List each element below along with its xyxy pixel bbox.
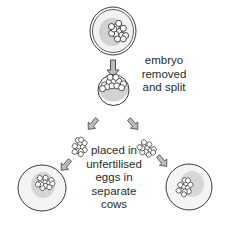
label-line: embryo [140, 54, 188, 68]
arrow-down-left-icon [85, 116, 101, 133]
fertilised-egg [90, 7, 136, 55]
label-line: removed [140, 68, 188, 82]
step-label-implanted: placed in unfertilised eggs in separate … [79, 144, 149, 212]
label-line: unfertilised [79, 158, 149, 172]
recipient-egg-right [166, 164, 212, 210]
split-embryo [98, 74, 129, 105]
embryo-splitting-diagram: embryo removed and split placed in unfer… [0, 0, 229, 236]
label-line: separate [79, 185, 149, 199]
step-label-embryo-split: embryo removed and split [140, 54, 188, 95]
arrow-down-right-icon [154, 153, 170, 170]
label-line: eggs in [79, 171, 149, 185]
arrow-down-left-icon [58, 157, 74, 174]
recipient-egg-left [18, 165, 66, 211]
label-line: placed in [79, 144, 149, 158]
arrow-down-right-icon [125, 116, 141, 133]
label-line: cows [79, 198, 149, 212]
label-line: and split [140, 81, 188, 95]
